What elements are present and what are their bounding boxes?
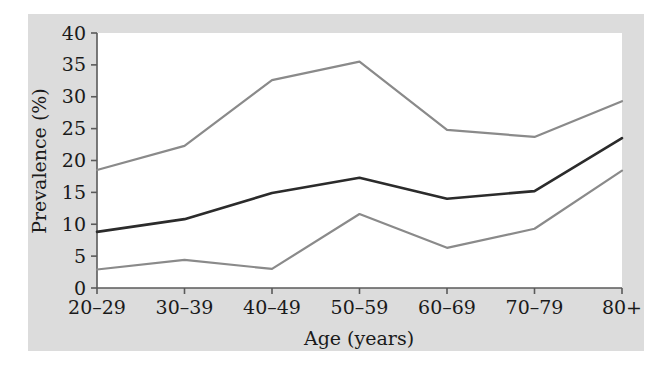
x-category-label: 40–49: [243, 296, 301, 318]
plot-area-background: [97, 33, 622, 288]
y-tick-label: 10: [62, 213, 86, 235]
y-tick-label: 30: [62, 85, 86, 107]
y-tick-label: 35: [62, 53, 86, 75]
y-tick-label: 40: [62, 22, 86, 44]
y-tick-label: 5: [74, 245, 86, 267]
x-category-label: 70–79: [506, 296, 564, 318]
y-axis-tick-labels: 0510152025303540: [62, 22, 86, 299]
figure-root: 0510152025303540 20–2930–3940–4950–5960–…: [0, 0, 672, 380]
x-axis-category-labels: 20–2930–3940–4950–5960–6970–7980+: [68, 296, 642, 318]
x-category-label: 50–59: [331, 296, 389, 318]
y-tick-label: 25: [62, 117, 86, 139]
line-chart: 0510152025303540 20–2930–3940–4950–5960–…: [0, 0, 672, 380]
x-category-label: 20–29: [68, 296, 126, 318]
x-axis-tick-marks: [97, 288, 622, 294]
x-axis-title: Age (years): [303, 327, 414, 349]
y-tick-label: 20: [62, 149, 86, 171]
y-axis-tick-marks: [91, 33, 97, 288]
x-category-label: 60–69: [418, 296, 476, 318]
y-axis-title: Prevalence (%): [28, 88, 50, 234]
y-tick-label: 15: [62, 181, 86, 203]
x-category-label: 30–39: [156, 296, 214, 318]
x-category-label: 80+: [602, 296, 642, 318]
